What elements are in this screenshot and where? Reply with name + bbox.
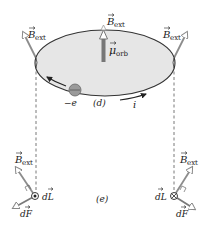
panel-label-e: (e) <box>96 194 109 204</box>
svg-text:ext: ext <box>22 159 33 167</box>
current-label: i <box>133 99 136 110</box>
field-label-left: B ext <box>27 27 46 43</box>
field-label-right: B ext <box>162 27 181 43</box>
bottom-right-dL-label: dL <box>155 188 167 203</box>
field-arrow-top-center-icon <box>101 25 106 30</box>
bottom-left-dL-label: dL <box>42 188 54 203</box>
svg-text:orb: orb <box>116 50 129 58</box>
bottom-right-field-label: B ext <box>179 152 198 168</box>
bottom-left-dF-label: dF <box>20 206 33 220</box>
svg-text:ext: ext <box>187 159 198 167</box>
field-label-center: B ext <box>106 14 125 30</box>
bottom-left-field-label: B ext <box>14 152 33 168</box>
svg-text:dF: dF <box>176 209 189 219</box>
panel-label-d: (d) <box>93 98 106 108</box>
svg-text:dF: dF <box>20 209 33 219</box>
bottom-right-dF-label: dF <box>176 206 189 220</box>
magnetic-moment-diagram: B ext B ext B ext μ orb −e (d) i B ext d… <box>0 0 205 225</box>
bottom-left-force-diagram <box>15 169 39 207</box>
svg-text:ext: ext <box>35 34 46 42</box>
svg-text:dL: dL <box>155 192 167 202</box>
svg-text:dL: dL <box>42 192 54 202</box>
svg-text:ext: ext <box>114 21 125 29</box>
svg-text:ext: ext <box>170 34 181 42</box>
electron-label: −e <box>64 98 77 108</box>
